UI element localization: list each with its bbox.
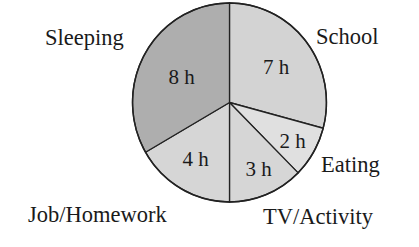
pie-slices — [133, 3, 327, 202]
value-label-job-homework: 4 h — [182, 147, 209, 171]
pie-chart: 7 h 2 h 3 h 4 h 8 h School Eating TV/Act… — [0, 0, 419, 247]
category-label-job-homework: Job/Homework — [28, 202, 167, 227]
category-label-school: School — [316, 24, 379, 49]
category-label-sleeping: Sleeping — [45, 25, 124, 50]
category-label-eating: Eating — [321, 152, 380, 177]
value-label-school: 7 h — [263, 55, 290, 79]
pie-chart-canvas: 7 h 2 h 3 h 4 h 8 h School Eating TV/Act… — [0, 0, 419, 247]
value-label-eating: 2 h — [279, 129, 306, 153]
value-label-tv-activity: 3 h — [245, 157, 272, 181]
value-label-sleeping: 8 h — [168, 65, 195, 89]
category-label-tv-activity: TV/Activity — [263, 204, 374, 229]
